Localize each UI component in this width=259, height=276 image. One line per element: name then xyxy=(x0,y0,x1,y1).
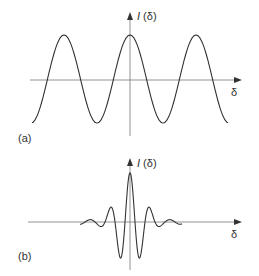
panel-b-damped-curve xyxy=(80,173,182,258)
panel-b-y-arrow-icon xyxy=(127,158,133,166)
panel-a-x-label: δ xyxy=(231,86,237,98)
panel-b: I (δ) δ (b) xyxy=(18,157,242,270)
panel-a: I (δ) δ (a) xyxy=(18,10,242,144)
panel-b-y-label: I (δ) xyxy=(137,157,157,169)
panel-a-label: (a) xyxy=(18,132,31,144)
panel-b-x-label: δ xyxy=(231,228,237,240)
panel-b-label: (b) xyxy=(18,250,31,262)
panel-b-x-arrow-icon xyxy=(234,219,242,225)
interferogram-figure: I (δ) δ (a) I (δ) δ (b) xyxy=(0,0,259,276)
panel-a-y-arrow-icon xyxy=(127,12,133,20)
panel-a-x-arrow-icon xyxy=(234,77,242,83)
panel-a-y-label: I (δ) xyxy=(137,10,157,22)
